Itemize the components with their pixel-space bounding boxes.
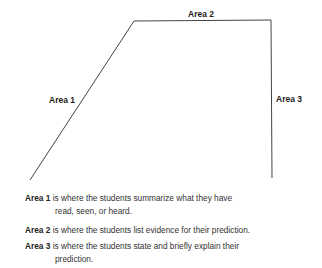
legend-text: is where the students list evidence for … [53,225,250,235]
legend-text-continued: read, seen, or heard. [25,205,315,218]
legend-text: is where the students summarize what the… [53,193,232,203]
legend-item-area-1: Area 1 is where the students summarize w… [25,192,315,218]
area-2-label: Area 2 [188,9,214,19]
legend-item-area-3: Area 3 is where the students state and b… [25,240,315,266]
legend-text: is where the students state and briefly … [53,241,239,251]
legend-term: Area 2 [25,225,50,235]
area-1-label: Area 1 [49,95,75,105]
legend-term: Area 3 [25,241,50,251]
area-3-label: Area 3 [276,94,302,104]
legend-text-continued: prediction. [25,253,315,266]
legend-item-area-2: Area 2 is where the students list eviden… [25,224,315,237]
legend-term: Area 1 [25,193,50,203]
